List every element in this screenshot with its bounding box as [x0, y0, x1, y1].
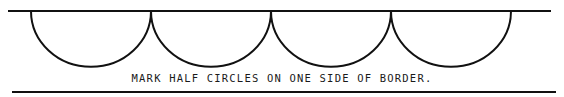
half-circle	[271, 11, 391, 67]
half-circle	[151, 11, 271, 67]
half-circle	[391, 11, 511, 67]
half-circle	[31, 11, 151, 67]
instruction-caption: MARK HALF CIRCLES ON ONE SIDE OF BORDER.	[0, 72, 564, 84]
half-circles	[31, 11, 511, 67]
